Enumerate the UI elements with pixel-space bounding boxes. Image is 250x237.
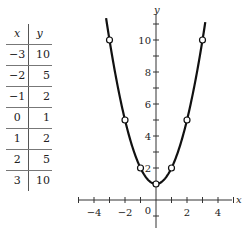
x-tick-label: 2 xyxy=(184,207,190,218)
data-point-marker xyxy=(153,181,159,187)
y-tick-label: 4 xyxy=(145,131,151,142)
data-point-marker xyxy=(169,165,175,171)
parabola-plot: xy−4−2240246810 xyxy=(0,0,250,237)
data-point-marker xyxy=(138,165,144,171)
data-point-marker xyxy=(122,117,128,123)
y-axis-label: y xyxy=(153,4,160,15)
x-axis-label: x xyxy=(236,194,242,205)
x-tick-label: −2 xyxy=(118,207,133,218)
origin-label: 0 xyxy=(145,205,151,216)
x-tick-label: −4 xyxy=(87,207,102,218)
y-tick-label: 10 xyxy=(138,35,151,46)
y-tick-label: 8 xyxy=(145,67,151,78)
axes: xy−4−2240246810 xyxy=(78,4,242,228)
data-point-marker xyxy=(184,117,190,123)
data-point-marker xyxy=(107,37,113,43)
y-tick-label: 6 xyxy=(145,99,151,110)
data-point-marker xyxy=(200,37,206,43)
y-tick-label: 2 xyxy=(145,163,151,174)
x-tick-label: 4 xyxy=(215,207,221,218)
